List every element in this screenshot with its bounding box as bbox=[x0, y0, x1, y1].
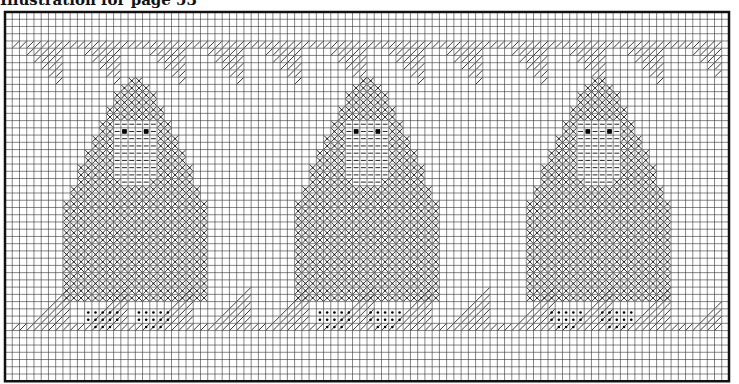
grid-lines bbox=[5, 12, 729, 381]
cross-stitch-chart bbox=[0, 0, 739, 384]
